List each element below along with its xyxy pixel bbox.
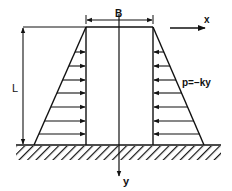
y-axis-label: y: [123, 175, 130, 187]
height-label: L: [12, 82, 18, 94]
dam-pressure-diagram: y B L x p=−ky: [0, 0, 232, 191]
left-pressure-arrows: [39, 52, 85, 134]
pressure-label: p=−ky: [182, 77, 211, 88]
right-pressure-arrows: [154, 52, 200, 134]
x-axis-label: x: [204, 14, 210, 25]
width-label: B: [115, 8, 122, 19]
